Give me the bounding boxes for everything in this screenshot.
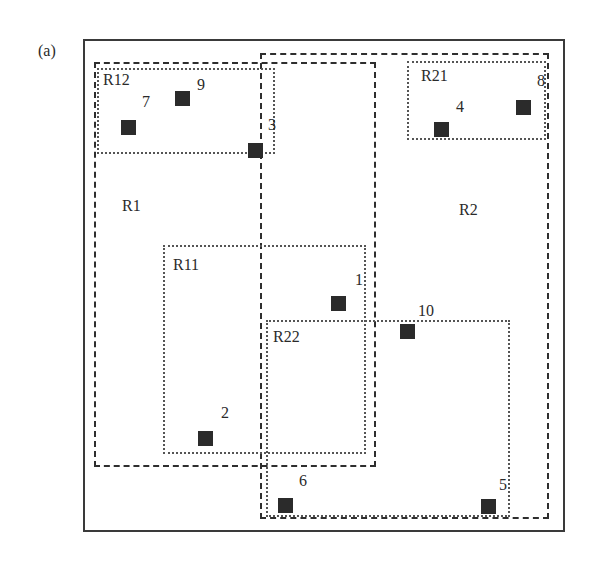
region-label-r11: R11	[173, 257, 199, 273]
point-marker-7	[121, 120, 136, 135]
point-marker-8	[516, 100, 531, 115]
spatial-index-diagram: (a) R1 R2 R12 R21 R11 R22 1 2 3 4 5 6 7 …	[0, 0, 602, 561]
point-label-5: 5	[499, 477, 507, 493]
point-marker-10	[400, 324, 415, 339]
region-label-r12: R12	[103, 72, 130, 88]
point-label-10: 10	[418, 303, 434, 319]
point-marker-3	[248, 143, 263, 158]
point-label-6: 6	[299, 473, 307, 489]
point-label-8: 8	[537, 73, 545, 89]
panel-label: (a)	[38, 43, 56, 59]
region-label-r22: R22	[273, 329, 300, 345]
point-label-4: 4	[456, 99, 464, 115]
point-marker-6	[278, 498, 293, 513]
region-label-r21: R21	[421, 68, 448, 84]
point-marker-5	[481, 499, 496, 514]
point-label-9: 9	[197, 77, 205, 93]
point-marker-2	[198, 431, 213, 446]
point-label-3: 3	[268, 117, 276, 133]
point-marker-1	[331, 296, 346, 311]
region-label-r1: R1	[122, 198, 141, 214]
point-marker-9	[175, 91, 190, 106]
point-label-1: 1	[355, 272, 363, 288]
point-label-2: 2	[221, 405, 229, 421]
point-label-7: 7	[142, 94, 150, 110]
point-marker-4	[434, 122, 449, 137]
region-label-r2: R2	[459, 202, 478, 218]
